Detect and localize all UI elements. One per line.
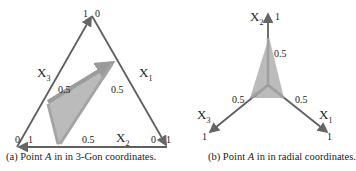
axis-x1	[92, 16, 166, 145]
x1-axis-label-radial: X1	[319, 107, 332, 125]
x3-axis-label-radial: X3	[197, 107, 210, 125]
x3-mid-tick: 0.5	[58, 84, 71, 95]
apex-right-label: 0	[95, 8, 100, 19]
apex-left-label: 1	[83, 8, 88, 19]
bottom-right-label-1: 1	[166, 134, 171, 145]
three-gon-diagram: 1 0 0 1 0 1 0.5 0.5 0.5 X3 X1 X2	[15, 8, 171, 148]
x1-mid-tick: 0.5	[111, 84, 124, 95]
bottom-right-label-0: 0	[151, 134, 156, 145]
x2-axis-label: X2	[116, 130, 129, 148]
x3-end-tick: 1	[202, 131, 207, 142]
x3-mid-tick-radial: 0.5	[232, 94, 245, 105]
x3-axis-label: X3	[37, 65, 50, 83]
bottom-left-label-1: 1	[28, 134, 33, 145]
radial-diagram: 1 1 1 0.5 0.5 0.5 X2 X3 X1	[197, 9, 332, 142]
x2-mid-tick: 0.5	[82, 134, 95, 145]
caption-a: (a) Point A in in 3-Gon coordinates.	[6, 151, 156, 162]
x1-end-tick: 1	[327, 131, 332, 142]
x2-mid-tick-radial: 0.5	[274, 48, 287, 59]
x1-mid-tick-radial: 0.5	[295, 94, 308, 105]
bottom-left-label-0: 0	[15, 134, 20, 145]
x2-axis-label-radial: X2	[250, 9, 263, 27]
x1-axis-label: X1	[139, 65, 152, 83]
caption-b: (b) Point A in in radial coordinates.	[208, 151, 356, 162]
x2-end-tick: 1	[275, 11, 280, 22]
